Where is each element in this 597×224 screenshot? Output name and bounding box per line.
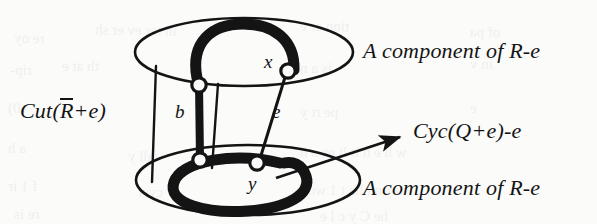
pointer-arrow-cycle	[276, 137, 400, 178]
label-cycle: Cyc(Q+e)-e	[413, 120, 521, 142]
label-edge-b: b	[175, 102, 185, 121]
node-b-bottom	[193, 153, 207, 167]
cut-line-left	[152, 66, 156, 182]
label-bottom-component: A component of R-e	[363, 177, 540, 199]
node-b-top	[192, 78, 206, 92]
node-y	[250, 156, 264, 170]
thick-edge-b	[199, 84, 200, 159]
label-edge-e: e	[272, 102, 280, 121]
label-cut-suffix: +e)	[74, 98, 107, 123]
thick-path-bottom-component	[173, 158, 307, 211]
label-cut: Cut(R+e)	[20, 100, 106, 122]
label-node-x: x	[264, 52, 272, 71]
label-node-y: y	[248, 174, 256, 193]
label-cut-overbar-letter: R	[60, 100, 74, 122]
node-x	[281, 64, 295, 78]
label-cut-prefix: Cut(	[20, 98, 60, 123]
label-top-component: A component of R-e	[363, 40, 540, 62]
diagram-canvas: re oyin ter ev er shtion ar eof parip-th…	[0, 0, 597, 224]
